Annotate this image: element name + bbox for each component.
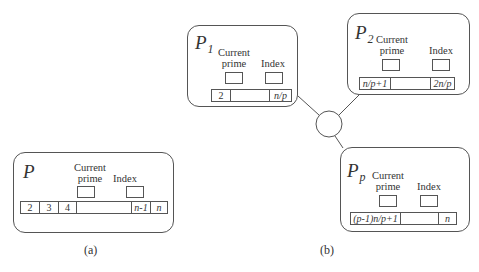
array-cell: 2 xyxy=(21,202,40,213)
array-cell: n xyxy=(439,213,456,224)
array-cell: n/p+1 xyxy=(360,78,391,89)
index-register xyxy=(432,59,450,71)
array-cell xyxy=(77,202,132,213)
index-label: Index xyxy=(110,173,140,184)
number-array: 2 3 4 n-1 n xyxy=(20,201,168,214)
array-cell xyxy=(391,78,431,89)
number-array: (p-1)n/p+1 n xyxy=(350,212,457,225)
current-prime-label: Current prime xyxy=(372,34,412,56)
index-label: Index xyxy=(426,45,456,56)
index-register xyxy=(126,186,144,198)
array-cell: 4 xyxy=(59,202,77,213)
current-prime-label: Current prime xyxy=(214,47,254,69)
process-name: P xyxy=(23,162,36,184)
array-cell: (p-1)n/p+1 xyxy=(351,213,401,224)
process-box-p1: P1 Current prime Index 2 n/p xyxy=(187,25,298,107)
array-cell: 3 xyxy=(40,202,59,213)
current-prime-register xyxy=(382,59,400,71)
process-box-p: P Current prime Index 2 3 4 n-1 n xyxy=(13,152,174,233)
process-box-pp: Pp Current prime Index (p-1)n/p+1 n xyxy=(340,147,470,232)
index-register xyxy=(265,72,283,84)
number-array: n/p+1 2n/p xyxy=(359,77,455,90)
array-cell: n xyxy=(151,202,167,213)
array-cell: n/p xyxy=(270,90,291,101)
network-hub-node xyxy=(316,111,342,137)
index-label: Index xyxy=(258,58,288,69)
number-array: 2 n/p xyxy=(211,89,292,102)
array-cell: 2 xyxy=(212,90,231,101)
current-prime-register xyxy=(77,186,95,198)
array-cell: n-1 xyxy=(132,202,151,213)
process-name: P1 xyxy=(195,33,214,55)
array-cell xyxy=(231,90,270,101)
current-prime-register xyxy=(225,72,243,84)
array-cell xyxy=(401,213,439,224)
process-box-p2: P2 Current prime Index n/p+1 2n/p xyxy=(347,13,470,95)
current-prime-label: Current prime xyxy=(70,162,110,184)
array-cell: 2n/p xyxy=(431,78,454,89)
caption-b: (b) xyxy=(320,243,334,258)
process-name: P2 xyxy=(355,23,374,45)
current-prime-label: Current prime xyxy=(368,170,408,192)
current-prime-register xyxy=(379,195,397,207)
caption-a: (a) xyxy=(84,243,97,258)
index-label: Index xyxy=(414,181,444,192)
process-name: Pp xyxy=(347,161,366,183)
index-register xyxy=(420,195,438,207)
